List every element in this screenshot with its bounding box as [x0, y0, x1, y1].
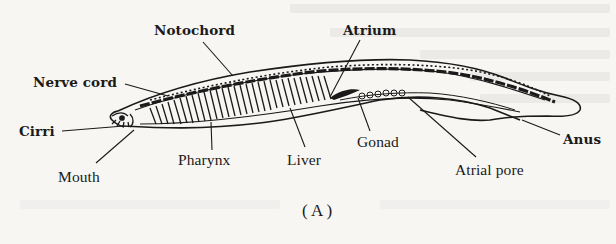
label-mouth: Mouth — [58, 169, 100, 185]
label-atrial-pore: Atrial pore — [455, 162, 524, 178]
label-notochord: Notochord — [154, 24, 235, 38]
figure-caption: ( A ) — [302, 201, 332, 221]
label-gonad: Gonad — [357, 134, 399, 150]
label-cirri: Cirri — [19, 125, 55, 139]
label-anus: Anus — [563, 133, 601, 147]
label-nerve-cord: Nerve cord — [33, 76, 117, 90]
caption-text: ( A ) — [302, 201, 332, 220]
label-pharynx: Pharynx — [178, 152, 230, 168]
oral-hood-cirri — [112, 113, 133, 127]
label-atrium: Atrium — [343, 24, 396, 38]
liver-shape — [330, 89, 360, 100]
label-liver: Liver — [287, 152, 321, 168]
